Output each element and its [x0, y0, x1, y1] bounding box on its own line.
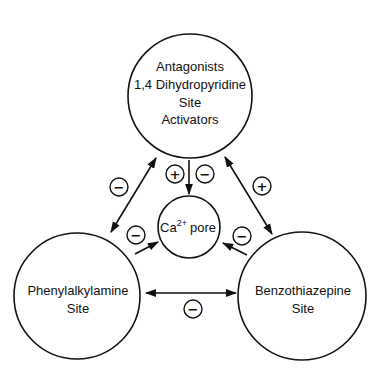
phenylalkylamine-label-line-1: Phenylalkylamine [27, 283, 128, 298]
dihydropyridine-label-line-3: Site [179, 95, 201, 110]
minus-sign: − [237, 229, 248, 244]
benzothiazepine-label-line-1: Benzothiazepine [255, 283, 351, 298]
pore-word: pore [190, 220, 216, 235]
pore-ion: Ca [160, 220, 177, 235]
minus-sign: − [188, 302, 199, 317]
dihydropyridine-label-line-4: Activators [161, 112, 219, 127]
sign-dhp-pore-minus: − [196, 165, 214, 183]
sign-dhp-btz: + [253, 177, 271, 195]
dihydropyridine-label-line-2: 1,4 Dihydropyridine [134, 77, 246, 92]
minus-sign: − [131, 228, 142, 243]
plus-sign: + [257, 179, 268, 194]
sign-dhp-pal: − [110, 178, 128, 196]
plus-sign: + [170, 167, 181, 182]
edge-dihydropyridine-benzothiazepine [225, 157, 272, 234]
node-benzothiazepine-site: Benzothiazepine Site [238, 232, 366, 360]
node-dihydropyridine-site: Antagonists 1,4 Dihydropyridine Site Act… [128, 34, 252, 158]
diagram-canvas: Antagonists 1,4 Dihydropyridine Site Act… [0, 0, 383, 377]
sign-pal-btz: − [184, 300, 202, 318]
sign-pal-pore: − [127, 226, 145, 244]
benzothiazepine-label-line-2: Site [292, 301, 314, 316]
minus-sign: − [200, 167, 211, 182]
node-phenylalkylamine-site: Phenylalkylamine Site [14, 233, 140, 359]
minus-sign: − [114, 180, 125, 195]
sign-dhp-pore-plus: + [166, 165, 184, 183]
dihydropyridine-label-line-1: Antagonists [156, 59, 224, 74]
pore-charge: 2+ [177, 218, 187, 228]
node-ca-pore: Ca2+pore [158, 196, 220, 258]
phenylalkylamine-label-line-2: Site [67, 301, 89, 316]
sign-btz-pore: − [233, 227, 251, 245]
